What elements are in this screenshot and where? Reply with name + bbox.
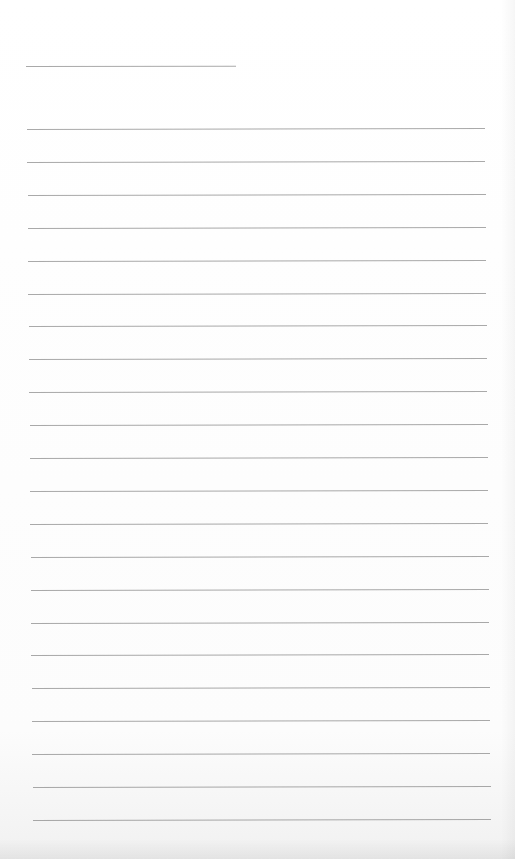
ruled-line (30, 556, 488, 558)
ruled-line (30, 490, 488, 492)
ruled-line (32, 687, 490, 689)
ruled-line (30, 457, 488, 459)
ruled-line (28, 293, 486, 295)
ruled-line (32, 786, 490, 788)
page-bottom-shadow (0, 839, 515, 859)
lined-paper-page (0, 0, 515, 859)
ruled-line (30, 523, 488, 525)
ruled-line (29, 391, 487, 393)
ruled-line (31, 589, 489, 591)
title-line (26, 66, 236, 67)
ruled-line (28, 260, 486, 262)
page-edge-shadow (501, 0, 515, 859)
ruled-line (27, 128, 485, 130)
ruled-line (31, 622, 489, 624)
ruled-line (29, 424, 487, 426)
ruled-line (33, 819, 491, 821)
ruled-line (32, 753, 490, 755)
ruled-line (27, 194, 485, 196)
ruled-line (31, 654, 489, 656)
ruled-line (29, 325, 487, 327)
ruled-line (28, 227, 486, 229)
ruled-line (27, 161, 485, 163)
ruled-line (29, 358, 487, 360)
ruled-line (32, 720, 490, 722)
